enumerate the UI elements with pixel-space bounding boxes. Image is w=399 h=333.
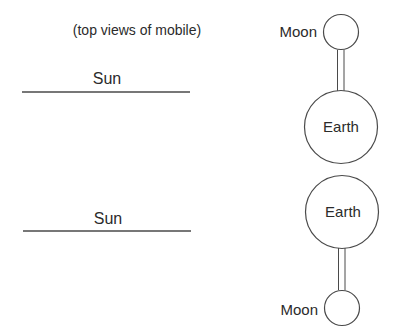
sun-label-2: Sun: [94, 210, 122, 227]
earth-label-1: Earth: [323, 118, 359, 135]
mobile-diagram: (top views of mobile) Sun Moon Earth Sun…: [0, 0, 399, 333]
panel-2: Sun Earth Moon: [23, 176, 379, 326]
caption: (top views of mobile): [73, 22, 201, 38]
earth-label-2: Earth: [325, 203, 361, 220]
sun-label-1: Sun: [93, 70, 121, 87]
connecting-rod-2: [339, 248, 346, 290]
moon-circle-2: [325, 291, 360, 326]
moon-circle-1: [324, 15, 359, 50]
moon-label-1: Moon: [279, 23, 317, 40]
moon-label-2: Moon: [280, 301, 318, 318]
connecting-rod-1: [338, 50, 345, 91]
